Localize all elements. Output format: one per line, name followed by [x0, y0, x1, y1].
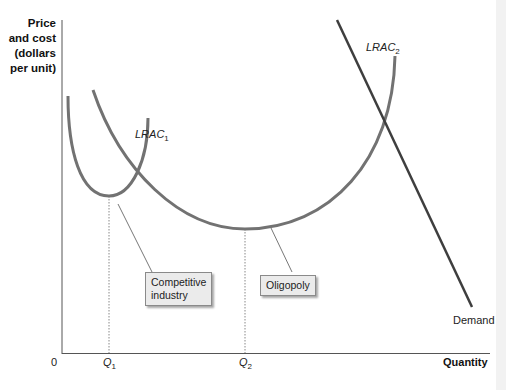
q1-tick-label: Q1 [103, 356, 116, 371]
demand-curve [337, 20, 472, 307]
q2-tick-label: Q2 [239, 356, 252, 371]
oligopoly-callout: Oligopoly [260, 275, 316, 296]
y-axis-label: Price and cost (dollars per unit) [0, 16, 56, 76]
origin-label: 0 [51, 356, 57, 368]
callout-text: Oligopoly [266, 279, 310, 292]
y-axis-label-line: and cost [0, 31, 56, 46]
lrac1-curve [68, 96, 148, 196]
callout-text: industry [151, 289, 206, 302]
competitive-industry-callout: Competitive industry [145, 272, 212, 306]
x-axis-label: Quantity [443, 356, 488, 368]
oligopoly-leader-line [271, 228, 292, 272]
y-axis-label-line: (dollars [0, 46, 56, 61]
lrac1-label: LRAC1 [135, 128, 169, 143]
chart-canvas [0, 0, 506, 390]
y-axis-label-line: per unit) [0, 61, 56, 76]
competitive-leader-line [118, 204, 152, 272]
demand-label: Demand [453, 314, 495, 326]
lrac2-label: LRAC2 [366, 41, 400, 56]
callout-text: Competitive [151, 276, 206, 289]
y-axis-label-line: Price [0, 16, 56, 31]
